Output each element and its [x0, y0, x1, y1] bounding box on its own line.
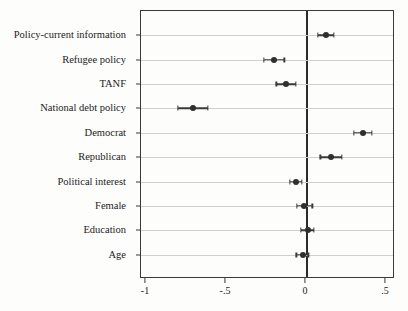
y-axis-tick — [136, 205, 141, 206]
y-axis-tick — [136, 254, 141, 255]
x-axis-tick-label: 0 — [303, 285, 308, 296]
confidence-interval-cap — [301, 179, 302, 184]
confidence-interval-cap — [320, 155, 321, 160]
x-axis-tick-label: -1 — [141, 285, 149, 296]
category-label: TANF — [99, 78, 126, 89]
confidence-interval-cap — [312, 203, 313, 208]
coefficient-plot-figure: Policy-current informationRefugee policy… — [0, 0, 408, 311]
y-axis-tick — [136, 35, 141, 36]
confidence-interval-cap — [313, 228, 314, 233]
confidence-interval-cap — [263, 57, 264, 62]
y-axis-tick — [136, 108, 141, 109]
x-axis-tick-label: .5 — [381, 285, 389, 296]
category-label: Policy-current information — [14, 29, 126, 40]
category-label: National debt policy — [40, 102, 126, 113]
estimate-point — [190, 105, 196, 111]
estimate-point — [360, 130, 366, 136]
x-axis-tick — [304, 278, 305, 283]
confidence-interval-cap — [308, 252, 309, 257]
category-label: Democrat — [85, 126, 126, 137]
y-axis-tick — [136, 157, 141, 158]
x-axis-tick — [144, 278, 145, 283]
category-label: Female — [95, 199, 126, 210]
gridline — [141, 230, 393, 231]
confidence-interval-cap — [207, 106, 208, 111]
confidence-interval-cap — [289, 179, 290, 184]
y-axis-tick — [136, 132, 141, 133]
confidence-interval-cap — [276, 82, 277, 87]
estimate-point — [300, 252, 306, 258]
confidence-interval-cap — [297, 203, 298, 208]
estimate-point — [305, 227, 311, 233]
confidence-interval-cap — [371, 130, 372, 135]
x-axis-tick-label: -.5 — [220, 285, 231, 296]
confidence-interval-cap — [301, 228, 302, 233]
gridline — [141, 206, 393, 207]
confidence-interval-cap — [317, 33, 318, 38]
confidence-interval-cap — [284, 57, 285, 62]
y-axis-tick — [136, 59, 141, 60]
gridline — [141, 84, 393, 85]
confidence-interval-cap — [296, 252, 297, 257]
confidence-interval-cap — [341, 155, 342, 160]
category-label: Age — [109, 248, 127, 259]
estimate-point — [293, 179, 299, 185]
estimate-point — [271, 57, 277, 63]
confidence-interval-cap — [353, 130, 354, 135]
x-axis-tick — [224, 278, 225, 283]
estimate-point — [301, 203, 307, 209]
confidence-interval-cap — [177, 106, 178, 111]
gridline — [141, 182, 393, 183]
category-labels: Policy-current informationRefugee policy… — [0, 0, 133, 311]
zero-reference-line — [306, 11, 308, 277]
confidence-interval-cap — [295, 82, 296, 87]
category-label: Education — [83, 224, 126, 235]
confidence-interval-cap — [333, 33, 334, 38]
estimate-point — [283, 81, 289, 87]
category-label: Refugee policy — [62, 53, 126, 64]
y-axis-tick — [136, 84, 141, 85]
x-axis-tick — [384, 278, 385, 283]
plot-area — [140, 10, 394, 278]
estimate-point — [328, 154, 334, 160]
y-axis-tick — [136, 181, 141, 182]
gridline — [141, 35, 393, 36]
gridline — [141, 255, 393, 256]
y-axis-tick — [136, 230, 141, 231]
gridline — [141, 157, 393, 158]
category-label: Republican — [78, 151, 126, 162]
category-label: Political interest — [57, 175, 126, 186]
estimate-point — [323, 32, 329, 38]
